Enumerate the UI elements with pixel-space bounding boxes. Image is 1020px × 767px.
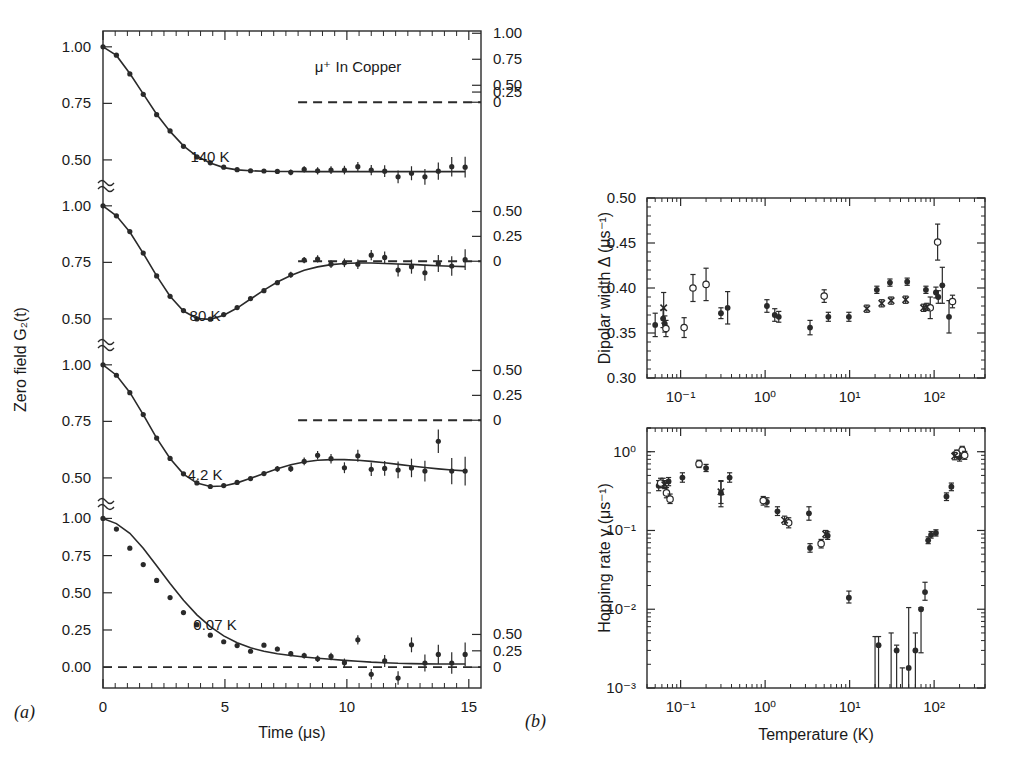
data-point-open [703, 281, 709, 287]
data-point [275, 280, 280, 285]
data-point [261, 471, 266, 476]
x-tick-label: 5 [221, 698, 229, 715]
data-point-filled [807, 325, 813, 331]
data-point [463, 165, 468, 170]
data-point-filled [923, 287, 929, 293]
data-point [261, 168, 266, 173]
data-point-filled [912, 648, 918, 654]
data-point [181, 144, 186, 149]
data-point [288, 272, 293, 277]
subpanel-label-2: 4.2 K [187, 466, 222, 483]
data-point-open [818, 540, 824, 546]
y-tick-label-right: 0.50 [493, 202, 522, 219]
data-point [100, 516, 105, 521]
data-point-filled [727, 475, 733, 481]
y-tick-label-left: 0.50 [62, 310, 91, 327]
data-point [355, 164, 360, 169]
data-point [114, 213, 119, 218]
data-point-filled [944, 494, 950, 500]
x-tick-label: 10² [923, 388, 945, 405]
y-tick-label-right: 0.25 [493, 386, 522, 403]
y-tick-label-right: 0.25 [493, 642, 522, 659]
data-point-open [949, 298, 955, 304]
data-point [395, 675, 400, 680]
x-tick-label: 10 [339, 698, 356, 715]
data-point-filled [846, 314, 852, 320]
data-point [235, 480, 240, 485]
data-point [449, 263, 454, 268]
data-point [114, 373, 119, 378]
data-point [302, 459, 307, 464]
data-point [342, 260, 347, 265]
y-tick-label-right: 0 [493, 411, 501, 428]
x-tick-label: 10¹ [839, 698, 861, 715]
data-point-filled [846, 595, 852, 601]
panel-b-label: (b) [525, 711, 546, 732]
y-tick-label-left: 0.25 [62, 621, 91, 638]
figure-root: 051015Time (μs)Zero field G₂(t)μ⁺ In Cop… [0, 0, 1020, 767]
data-point-filled [876, 642, 882, 648]
data-point [342, 167, 347, 172]
data-point [248, 476, 253, 481]
data-point-filled [825, 314, 831, 320]
panel-a-annotation-title: μ⁺ In Copper [315, 58, 402, 75]
data-point [302, 653, 307, 658]
data-point [422, 660, 427, 665]
data-point-open [760, 497, 766, 503]
y-tick-label-left: 1.00 [62, 38, 91, 55]
data-point [141, 412, 146, 417]
y-tick-label-right: 0.75 [493, 50, 522, 67]
y-tick-label-left: 0.75 [62, 94, 91, 111]
data-point-filled [680, 475, 686, 481]
data-point [382, 658, 387, 663]
x-tick-label: 10⁻¹ [666, 388, 696, 405]
data-point [275, 466, 280, 471]
data-point-filled [887, 280, 893, 286]
data-point [235, 305, 240, 310]
data-point-filled [806, 510, 812, 516]
data-point-open [663, 325, 669, 331]
x-tick-label: 15 [460, 698, 477, 715]
data-point-filled [918, 606, 924, 612]
data-point [208, 633, 213, 638]
data-point-filled [703, 465, 709, 471]
y-tick-label-left: 0.00 [62, 658, 91, 675]
data-point-filled [807, 545, 813, 551]
data-point [436, 652, 441, 657]
y-tick-label-right: 0 [493, 93, 501, 110]
data-point [167, 128, 172, 133]
data-point [181, 610, 186, 615]
data-point [355, 262, 360, 267]
panel-a-ylabel: Zero field G₂(t) [12, 307, 29, 412]
data-point [275, 646, 280, 651]
data-point [127, 390, 132, 395]
subpanel-label-1: 80 K [190, 307, 221, 324]
data-point [449, 660, 454, 665]
data-point [382, 466, 387, 471]
data-point [127, 71, 132, 76]
data-point-filled [652, 322, 658, 328]
data-point-open [821, 293, 827, 299]
data-point [409, 465, 414, 470]
data-point-filled [764, 303, 770, 309]
data-point-filled [725, 305, 731, 311]
y-tick-label: 10⁰ [613, 443, 636, 460]
data-point [114, 53, 119, 58]
data-point [369, 253, 374, 258]
data-point-filled [935, 294, 941, 300]
x-tick-label: 10² [923, 698, 945, 715]
data-point [154, 578, 159, 583]
data-point-open [696, 461, 702, 467]
data-point [235, 643, 240, 648]
panel-b-xlabel: Temperature (K) [758, 726, 874, 743]
y-tick-label-left: 0.75 [62, 547, 91, 564]
data-point [302, 258, 307, 263]
data-point [315, 656, 320, 661]
data-point [395, 467, 400, 472]
x-tick-label: 0 [99, 698, 107, 715]
data-point [355, 637, 360, 642]
x-tick-label: 10⁰ [754, 388, 777, 405]
data-point [208, 484, 213, 489]
data-point [275, 169, 280, 174]
data-point [422, 174, 427, 179]
